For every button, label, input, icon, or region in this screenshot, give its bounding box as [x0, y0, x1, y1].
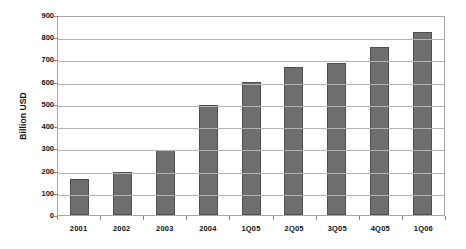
bar-2004	[199, 105, 218, 215]
bar-slot-3Q05	[315, 17, 358, 215]
gridline-800	[58, 39, 444, 40]
x-axis-tick-3Q05: 3Q05	[316, 224, 359, 238]
y-axis-tick-mark-400	[54, 127, 58, 128]
y-axis-tick-mark-600	[54, 83, 58, 84]
bar-4Q05	[370, 47, 389, 215]
gridline-500	[58, 106, 444, 107]
gridline-400	[58, 128, 444, 129]
gridline-200	[58, 173, 444, 174]
bar-2Q05	[284, 67, 303, 215]
y-axis-tick-600: 600	[28, 79, 54, 87]
x-axis-tick-2001: 2001	[57, 224, 100, 238]
bar-slot-1Q05	[230, 17, 273, 215]
y-axis-tick-400: 400	[28, 123, 54, 131]
x-axis-tick-2Q05: 2Q05	[273, 224, 316, 238]
x-axis-tick-1Q06: 1Q06	[402, 224, 445, 238]
bar-2002	[113, 172, 132, 215]
gridline-700	[58, 61, 444, 62]
bar-slot-2004	[187, 17, 230, 215]
y-axis-tick-0: 0	[28, 212, 54, 220]
gridline-600	[58, 84, 444, 85]
y-axis-tick-700: 700	[28, 57, 54, 65]
y-axis-tick-mark-500	[54, 105, 58, 106]
bars-layer	[58, 17, 444, 215]
y-axis-tick-labels: 9008007006005004003002001000	[28, 16, 54, 216]
x-axis-tick-4Q05: 4Q05	[359, 224, 402, 238]
bar-1Q06	[413, 32, 432, 215]
x-axis-tick-mark-7	[359, 216, 360, 220]
x-axis-tick-2003: 2003	[143, 224, 186, 238]
y-axis-tick-200: 200	[28, 168, 54, 176]
y-axis-tick-900: 900	[28, 12, 54, 20]
y-axis-tick-mark-200	[54, 172, 58, 173]
y-axis-tick-mark-700	[54, 60, 58, 61]
y-axis-title-label: Billion USD	[18, 92, 28, 139]
bar-2001	[70, 179, 89, 215]
y-axis-tick-mark-800	[54, 38, 58, 39]
y-axis-tick-mark-0	[54, 216, 58, 217]
gridline-100	[58, 195, 444, 196]
bar-2003	[156, 150, 175, 215]
bar-slot-2003	[144, 17, 187, 215]
x-axis-tick-mark-1	[100, 216, 101, 220]
x-axis-tick-mark-8	[402, 216, 403, 220]
x-axis-tick-mark-6	[316, 216, 317, 220]
x-axis-tick-mark-2	[143, 216, 144, 220]
y-axis-tick-mark-100	[54, 194, 58, 195]
x-axis-tick-mark-3	[186, 216, 187, 220]
bar-slot-2Q05	[272, 17, 315, 215]
gridline-300	[58, 150, 444, 151]
y-axis-tick-800: 800	[28, 34, 54, 42]
y-axis-tick-500: 500	[28, 101, 54, 109]
bar-slot-4Q05	[358, 17, 401, 215]
x-axis-tick-marks	[57, 216, 445, 221]
bar-chart-figure: Billion USD 9008007006005004003002001000…	[0, 0, 466, 249]
bar-3Q05	[327, 63, 346, 215]
bar-slot-2002	[101, 17, 144, 215]
x-axis-tick-mark-4	[229, 216, 230, 220]
y-axis-tick-mark-300	[54, 149, 58, 150]
y-axis-tick-mark-900	[54, 16, 58, 17]
x-axis-tick-mark-5	[273, 216, 274, 220]
bar-slot-2001	[58, 17, 101, 215]
bar-slot-1Q06	[401, 17, 444, 215]
y-axis-tick-100: 100	[28, 190, 54, 198]
x-axis-tick-labels: 20012002200320041Q052Q053Q054Q051Q06	[57, 224, 445, 238]
x-axis-tick-mark-9	[445, 216, 446, 220]
x-axis-tick-2004: 2004	[186, 224, 229, 238]
y-axis-tick-300: 300	[28, 146, 54, 154]
x-axis-tick-2002: 2002	[100, 224, 143, 238]
x-axis-tick-1Q05: 1Q05	[229, 224, 272, 238]
plot-area	[57, 16, 445, 216]
